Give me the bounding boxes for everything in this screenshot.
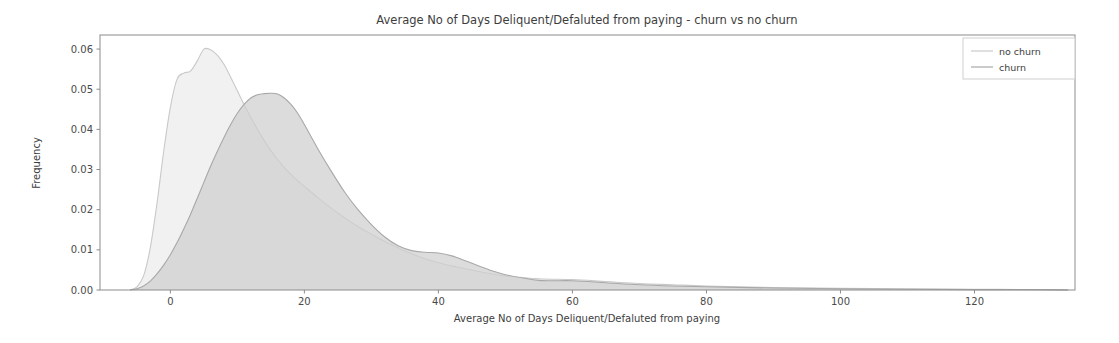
y-axis-label: Frequency bbox=[31, 137, 42, 189]
x-axis-ticks: 020406080100120 bbox=[167, 290, 984, 307]
y-tick-label: 0.01 bbox=[71, 244, 93, 255]
legend-label-no-churn[interactable]: no churn bbox=[999, 46, 1041, 57]
y-tick-label: 0.00 bbox=[71, 285, 93, 296]
y-tick-label: 0.05 bbox=[71, 84, 93, 95]
y-axis-ticks: 0.000.010.020.030.040.050.06 bbox=[71, 44, 100, 296]
x-tick-label: 20 bbox=[298, 296, 311, 307]
x-tick-label: 60 bbox=[566, 296, 579, 307]
x-axis-label: Average No of Days Deliquent/Defaluted f… bbox=[454, 313, 720, 324]
x-tick-label: 0 bbox=[167, 296, 173, 307]
figure-container: 020406080100120 0.000.010.020.030.040.05… bbox=[0, 0, 1119, 343]
density-plot: 020406080100120 0.000.010.020.030.040.05… bbox=[0, 0, 1119, 343]
x-tick-label: 40 bbox=[432, 296, 445, 307]
chart-title: Average No of Days Deliquent/Defaluted f… bbox=[376, 13, 797, 27]
legend-label-churn[interactable]: churn bbox=[999, 62, 1026, 73]
y-tick-label: 0.02 bbox=[71, 204, 93, 215]
y-tick-label: 0.03 bbox=[71, 164, 93, 175]
x-tick-label: 80 bbox=[700, 296, 713, 307]
x-tick-label: 100 bbox=[831, 296, 850, 307]
y-tick-label: 0.06 bbox=[71, 44, 93, 55]
chart-legend[interactable]: no churnchurn bbox=[963, 38, 1075, 79]
y-tick-label: 0.04 bbox=[71, 124, 93, 135]
x-tick-label: 120 bbox=[965, 296, 984, 307]
legend-frame bbox=[963, 38, 1075, 79]
